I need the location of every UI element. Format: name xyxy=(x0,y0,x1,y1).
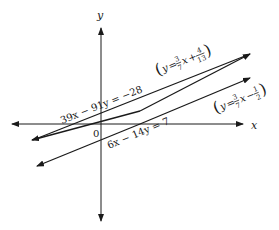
lower-line-left xyxy=(37,124,140,166)
parallel-lines-diagram: x y 0 39x − 91y = −28 6x − 14y = 7 ( y =… xyxy=(0,0,279,230)
x-axis-label: x xyxy=(251,119,258,132)
lower-line-slope-intercept: ( y = 3 7 x − 1 2 ) xyxy=(210,79,270,118)
upper-line-slope-intercept: ( y = 3 7 x + 4 13 ) xyxy=(152,40,214,80)
y-axis-label: y xyxy=(96,9,104,22)
origin-label: 0 xyxy=(93,128,99,139)
lower-line-equation: 6x − 14y = 7 xyxy=(106,115,171,151)
